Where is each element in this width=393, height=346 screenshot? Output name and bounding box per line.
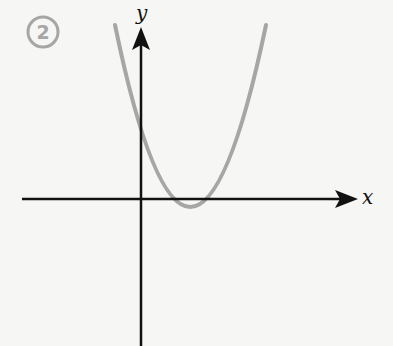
x-axis-label: x	[362, 185, 373, 209]
y-axis	[132, 27, 150, 346]
y-axis-label: y	[135, 1, 148, 25]
svg-text:2: 2	[36, 21, 49, 43]
figure-number-badge: 2	[28, 17, 58, 47]
parabola-curve	[115, 25, 266, 207]
graph-figure: 2 x y	[0, 0, 393, 346]
